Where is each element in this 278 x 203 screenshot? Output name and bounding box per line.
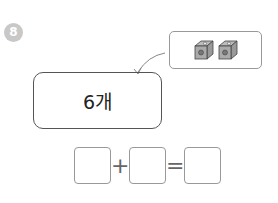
cube-icon: [217, 39, 239, 61]
picture-box: [169, 31, 262, 69]
answer-box: 6개: [33, 72, 162, 129]
cube-icon: [193, 39, 215, 61]
blank-input-2[interactable]: [129, 147, 166, 184]
equals-sign: =: [166, 147, 184, 184]
plus-sign: +: [111, 147, 129, 184]
blank-input-1[interactable]: [74, 147, 111, 184]
blank-input-3[interactable]: [184, 147, 221, 184]
equation-row: + =: [74, 147, 221, 184]
